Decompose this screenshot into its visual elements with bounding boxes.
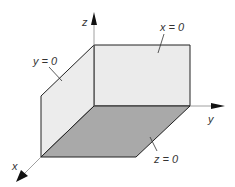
x-axis — [22, 157, 41, 176]
z-axis-arrow-icon — [91, 12, 97, 25]
leader-y0 — [49, 67, 62, 81]
plane-x0-label: x = 0 — [159, 21, 185, 33]
plane-x0 — [94, 45, 190, 106]
z-axis-label: z — [81, 16, 88, 28]
coordinate-planes-diagram: z y x x = 0 y = 0 z = 0 — [0, 0, 235, 187]
y-axis-arrow-icon — [211, 103, 225, 109]
y-axis-label: y — [207, 113, 215, 125]
plane-z0-label: z = 0 — [153, 153, 179, 165]
x-axis-label: x — [11, 160, 18, 172]
plane-y0-label: y = 0 — [32, 55, 58, 67]
